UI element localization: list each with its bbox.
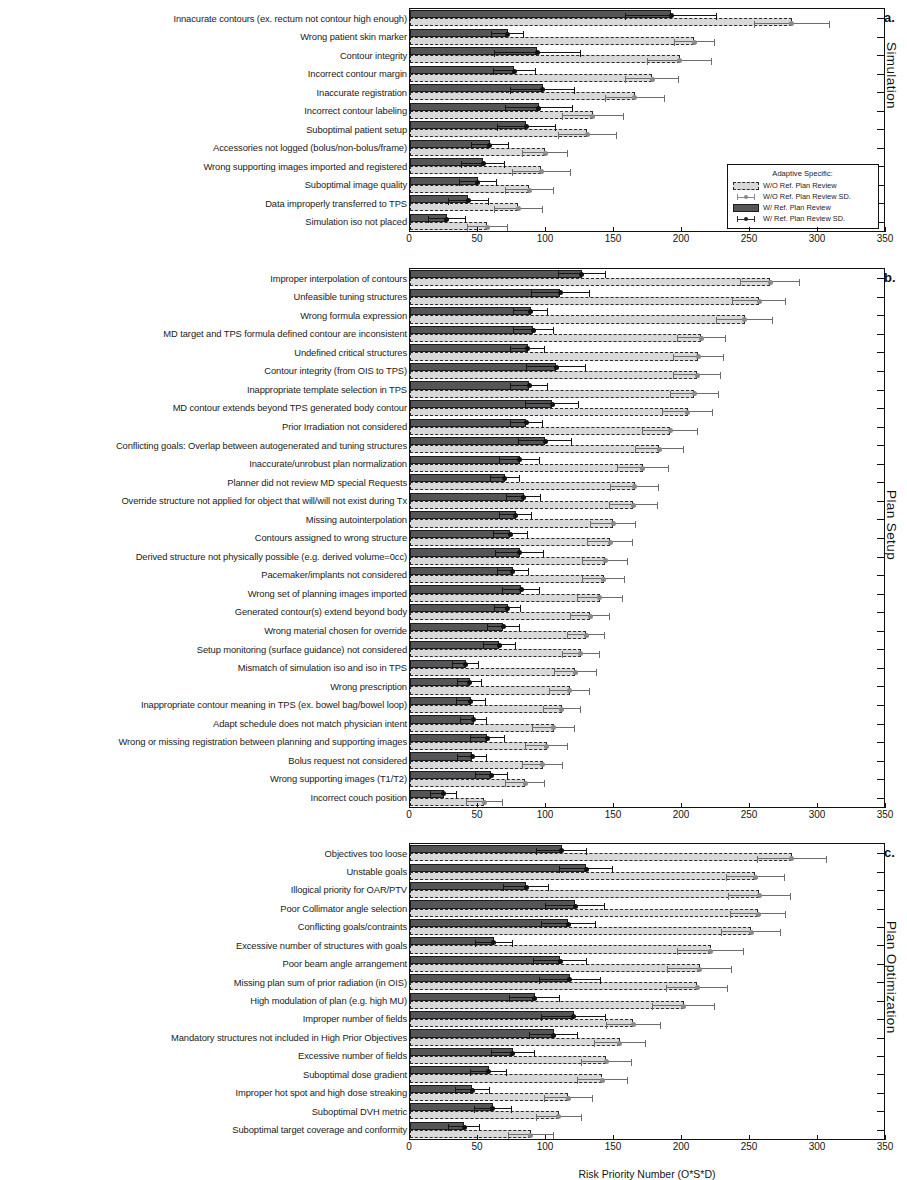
errorbar-without-ref-plan-review xyxy=(466,801,504,802)
category-label: Pacemaker/implants not considered xyxy=(261,566,410,585)
errorbar-without-ref-plan-review xyxy=(562,115,624,116)
errorbar-without-ref-plan-review xyxy=(670,393,719,394)
bar-without-ref-plan-review xyxy=(410,890,759,898)
bar-group xyxy=(410,621,884,640)
x-tick xyxy=(817,227,818,232)
bar-without-ref-plan-review xyxy=(410,74,652,82)
legend-errorbar-with-review xyxy=(733,215,759,223)
bar-group xyxy=(410,973,884,991)
bar-row: Wrong or missing registration between pl… xyxy=(410,733,884,752)
errorbar-with-ref-plan-review xyxy=(510,348,545,349)
category-label: Contour integrity xyxy=(340,46,410,64)
errorbar-without-ref-plan-review xyxy=(730,913,787,914)
errorbar-without-ref-plan-review xyxy=(582,560,628,561)
errorbar-with-ref-plan-review xyxy=(499,459,540,460)
category-label: Unstable goals xyxy=(346,862,410,880)
errorbar-without-ref-plan-review xyxy=(647,60,712,61)
category-label: Prior Irradiation not considered xyxy=(282,417,410,436)
bar-group xyxy=(410,139,884,157)
errorbar-with-ref-plan-review xyxy=(526,366,586,367)
errorbar-with-ref-plan-review xyxy=(471,144,509,145)
x-tick-label: 100 xyxy=(537,233,554,244)
x-tick-label: 50 xyxy=(471,809,482,820)
x-tick xyxy=(885,803,886,808)
bar-group xyxy=(410,27,884,45)
bar-group xyxy=(410,751,884,770)
category-label: Wrong set of planning images imported xyxy=(248,584,410,603)
errorbar-with-ref-plan-review xyxy=(497,570,530,571)
category-label: Wrong patient skin marker xyxy=(300,27,410,45)
bar-without-ref-plan-review xyxy=(410,501,633,509)
category-label: Wrong supporting images (T1/T2) xyxy=(270,770,410,789)
errorbar-without-ref-plan-review xyxy=(512,171,572,172)
errorbar-with-ref-plan-review xyxy=(448,1126,481,1127)
x-tick-label: 350 xyxy=(877,809,894,820)
category-label: Suboptimal target coverage and conformit… xyxy=(232,1121,410,1139)
bar-group xyxy=(410,603,884,622)
bar-without-ref-plan-review xyxy=(410,519,613,527)
bar-row: Mandatory structures not included in Hig… xyxy=(410,1028,884,1046)
x-tick-label: 50 xyxy=(471,233,482,244)
legend-label-1: W/O Ref. Plan Review SD. xyxy=(763,192,851,201)
x-tick-label: 300 xyxy=(809,233,826,244)
panel-letter-b: b. xyxy=(884,270,896,285)
bar-row: MD target and TPS formula defined contou… xyxy=(410,325,884,344)
errorbar-with-ref-plan-review xyxy=(452,663,479,664)
x-tick xyxy=(885,227,886,232)
errorbar-with-ref-plan-review xyxy=(475,942,513,943)
bar-row: Wrong supporting images (T1/T2) xyxy=(410,770,884,789)
x-tick xyxy=(613,227,614,232)
category-label: Suboptimal image quality xyxy=(305,176,410,194)
bar-without-ref-plan-review xyxy=(410,964,700,972)
errorbar-with-ref-plan-review xyxy=(470,737,505,738)
bar-row: Wrong prescription xyxy=(410,677,884,696)
errorbar-without-ref-plan-review xyxy=(544,1097,593,1098)
x-tick-label: 0 xyxy=(406,1141,412,1152)
bar-group xyxy=(410,881,884,899)
errorbar-without-ref-plan-review xyxy=(467,226,508,227)
category-label: Poor Collimator angle selection xyxy=(280,899,410,917)
bar-without-ref-plan-review xyxy=(410,464,643,472)
bar-with-ref-plan-review xyxy=(410,604,508,612)
bar-row: Poor Collimator angle selection xyxy=(410,899,884,917)
x-tick-label: 50 xyxy=(471,1141,482,1152)
errorbar-without-ref-plan-review xyxy=(543,708,581,709)
errorbar-without-ref-plan-review xyxy=(587,541,633,542)
bar-row: Derived structure not physically possibl… xyxy=(410,547,884,566)
errorbar-with-ref-plan-review xyxy=(529,1034,578,1035)
bar-group xyxy=(410,659,884,678)
errorbar-with-ref-plan-review xyxy=(558,273,607,274)
category-label: Inappropriate template selection in TPS xyxy=(247,380,410,399)
errorbar-without-ref-plan-review xyxy=(536,1116,582,1117)
bar-row: Contour integrity xyxy=(410,46,884,64)
category-label: Incorrect contour margin xyxy=(308,65,410,83)
errorbar-without-ref-plan-review xyxy=(570,615,611,616)
panel-plan-setup: Improper interpolation of contoursUnfeas… xyxy=(0,268,907,808)
errorbar-with-ref-plan-review xyxy=(505,107,573,108)
bar-without-ref-plan-review xyxy=(410,37,694,45)
bar-row: Illogical priority for OAR/PTV xyxy=(410,881,884,899)
errorbar-without-ref-plan-review xyxy=(522,152,568,153)
x-tick xyxy=(477,1135,478,1140)
errorbar-with-ref-plan-review xyxy=(506,496,541,497)
category-label: Poor beam angle arrangement xyxy=(283,955,410,973)
x-axis-b: 050100150200250300350 xyxy=(409,808,885,832)
bar-group xyxy=(410,955,884,973)
errorbar-with-ref-plan-review xyxy=(541,923,595,924)
errorbar-with-ref-plan-review xyxy=(499,514,532,515)
bar-group xyxy=(410,584,884,603)
bar-without-ref-plan-review xyxy=(410,872,755,880)
bar-with-ref-plan-review xyxy=(410,419,526,427)
bar-group xyxy=(410,343,884,362)
legend-swatch-with-review xyxy=(733,204,759,212)
category-label: Accessories not logged (bolus/non-bolus/… xyxy=(213,139,410,157)
bar-row: Suboptimal patient setup xyxy=(410,120,884,138)
category-label: Mismatch of simulation iso and iso in TP… xyxy=(238,659,410,678)
errorbar-with-ref-plan-review xyxy=(502,589,540,590)
legend-item-3: W/ Ref. Plan Review SD. xyxy=(733,213,872,224)
bar-row: Improper interpolation of contours xyxy=(410,269,884,288)
errorbar-without-ref-plan-review xyxy=(532,727,575,728)
x-tick-label: 150 xyxy=(605,1141,622,1152)
bar-row: Undefined critical structures xyxy=(410,343,884,362)
bar-group xyxy=(410,510,884,529)
